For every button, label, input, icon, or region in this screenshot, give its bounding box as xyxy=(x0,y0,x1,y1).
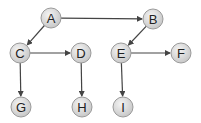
nodes: ABCDEFGHI xyxy=(10,8,191,117)
node-h: H xyxy=(72,97,92,117)
node-label: G xyxy=(16,100,26,115)
graph-diagram: ABCDEFGHI xyxy=(0,0,201,123)
edges xyxy=(20,18,170,96)
node-label: D xyxy=(76,46,85,61)
edge-e-i xyxy=(121,63,122,96)
node-label: A xyxy=(47,11,56,26)
edge-c-g xyxy=(20,63,21,96)
node-b: B xyxy=(143,9,163,29)
edge-b-e xyxy=(129,26,147,45)
node-label: C xyxy=(15,46,24,61)
node-label: H xyxy=(77,100,86,115)
edge-a-c xyxy=(27,26,44,45)
node-label: E xyxy=(117,46,126,61)
node-i: I xyxy=(113,97,133,117)
node-label: F xyxy=(177,46,185,61)
edge-d-h xyxy=(81,63,82,96)
node-g: G xyxy=(11,97,31,117)
node-label: I xyxy=(121,100,125,115)
node-d: D xyxy=(71,43,91,63)
node-a: A xyxy=(41,8,61,28)
node-c: C xyxy=(10,43,30,63)
node-e: E xyxy=(111,43,131,63)
node-f: F xyxy=(171,43,191,63)
edge-a-b xyxy=(61,18,142,19)
node-label: B xyxy=(149,12,158,27)
